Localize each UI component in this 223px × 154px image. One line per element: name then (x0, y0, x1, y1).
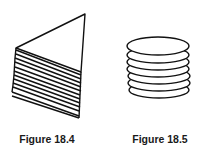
figure-18-5-illustration (112, 0, 223, 130)
skewed-sheet-stack-icon (0, 0, 112, 130)
disc-stack-icon (112, 0, 223, 130)
figure-18-4-caption: Figure 18.4 (12, 133, 82, 145)
figure-18-5-caption: Figure 18.5 (125, 133, 195, 145)
figure-18-4-illustration (0, 0, 112, 130)
